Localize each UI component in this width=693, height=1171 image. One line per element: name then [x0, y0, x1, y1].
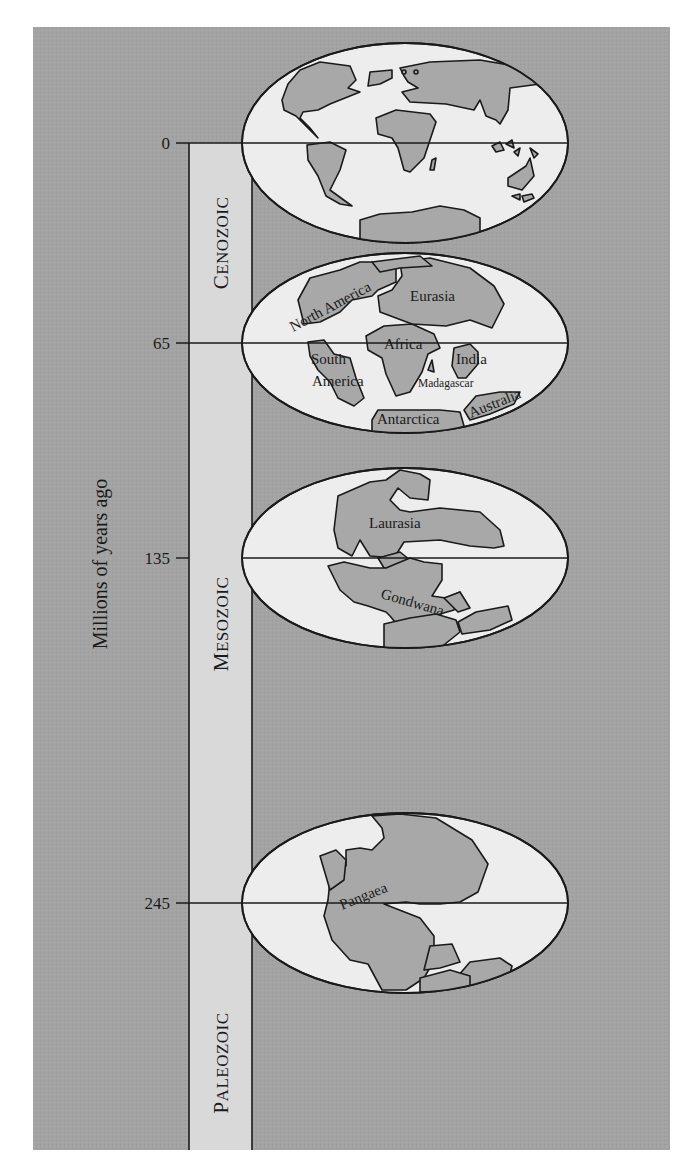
- label-south: South: [311, 351, 347, 367]
- globe-135ma: Laurasia Gondwana: [242, 468, 568, 648]
- label-madagascar: Madagascar: [418, 377, 474, 390]
- label-laurasia: Laurasia: [369, 515, 421, 531]
- label-america: America: [312, 373, 364, 389]
- tick-label: 245: [145, 894, 171, 913]
- figure-panel: Millions of years ago 0 65 135 245 CENOZ…: [33, 27, 670, 1150]
- era-label-mesozoic: MESOZOIC: [209, 577, 233, 671]
- tick-label: 0: [162, 134, 171, 153]
- era-label-paleozoic: PALEOZOIC: [209, 1012, 233, 1113]
- era-label-cenozoic: CENOZOIC: [209, 197, 233, 290]
- label-africa: Africa: [384, 336, 423, 352]
- globe-245ma: Pangaea: [242, 813, 568, 993]
- tick-label: 135: [145, 549, 171, 568]
- continental-drift-diagram: Millions of years ago 0 65 135 245 CENOZ…: [33, 27, 670, 1150]
- label-india: India: [456, 351, 487, 367]
- label-eurasia: Eurasia: [410, 288, 455, 304]
- tick-label: 65: [153, 334, 170, 353]
- label-antarctica: Antarctica: [377, 411, 440, 427]
- axis-title: Millions of years ago: [89, 479, 112, 650]
